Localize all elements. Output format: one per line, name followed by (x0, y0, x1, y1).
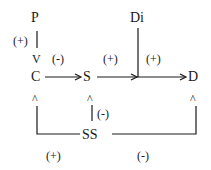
node-p: P (31, 11, 39, 25)
edge-ss-d-line (112, 106, 196, 134)
node-c: C (31, 70, 40, 84)
label-ss-c-sign: (+) (46, 150, 61, 162)
arrow-up-icon-d: ^ (190, 93, 196, 105)
arrow-up-icon-s: ^ (87, 93, 93, 105)
diagram-connectors (0, 0, 211, 170)
node-di: Di (130, 11, 144, 25)
node-ss: SS (82, 128, 98, 142)
arrow-up-icon-c: ^ (32, 93, 38, 105)
label-c-s-sign: (-) (52, 53, 64, 65)
arrow-down-icon: V (32, 53, 41, 65)
node-s: S (83, 70, 91, 84)
label-p-c-sign: (+) (13, 35, 28, 47)
label-s-d-sign: (+) (103, 53, 118, 65)
node-d: D (188, 70, 198, 84)
label-ss-s-sign: (-) (97, 108, 109, 120)
label-ss-d-sign: (-) (137, 150, 149, 162)
label-di-d-sign: (+) (146, 53, 161, 65)
edge-ss-c-line (37, 106, 80, 134)
